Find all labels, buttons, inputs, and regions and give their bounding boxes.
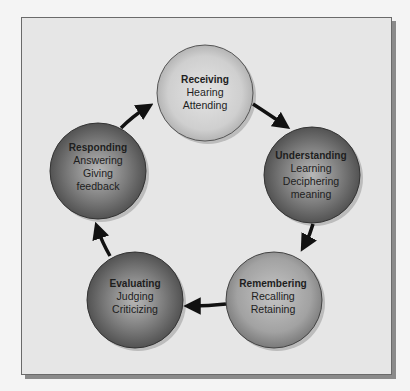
node-line: feedback	[52, 180, 144, 193]
node-title: Receiving	[161, 73, 249, 86]
node-line: Attending	[159, 99, 251, 112]
node-evaluating: Evaluating Judging Criticizing	[85, 277, 185, 316]
node-line: Answering	[52, 154, 144, 167]
node-title: Understanding	[267, 149, 355, 162]
diagram-canvas: Receiving Hearing Attending Understandin…	[0, 0, 410, 391]
node-title: Responding	[54, 141, 142, 154]
arrow-receiving-to-understanding	[253, 104, 283, 124]
node-line: Criticizing	[89, 303, 181, 316]
node-understanding: Understanding Learning Deciphering meani…	[261, 149, 361, 201]
arrow-understanding-to-remembering	[305, 224, 313, 244]
node-line: meaning	[265, 188, 357, 201]
node-line: Hearing	[159, 86, 251, 99]
node-title: Evaluating	[91, 277, 179, 290]
arrow-responding-to-receiving	[121, 108, 146, 128]
node-remembering: Remembering Recalling Retaining	[223, 277, 323, 316]
node-line: Deciphering	[265, 175, 357, 188]
node-line: Giving	[52, 167, 144, 180]
node-receiving: Receiving Hearing Attending	[155, 73, 255, 112]
node-line: Recalling	[227, 290, 319, 303]
node-line: Judging	[89, 290, 181, 303]
arrow-remembering-to-evaluating	[192, 304, 226, 306]
node-responding: Responding Answering Giving feedback	[48, 141, 148, 193]
arrow-evaluating-to-responding	[98, 230, 110, 256]
node-line: Learning	[265, 162, 357, 175]
node-title: Remembering	[229, 277, 317, 290]
node-line: Retaining	[227, 303, 319, 316]
